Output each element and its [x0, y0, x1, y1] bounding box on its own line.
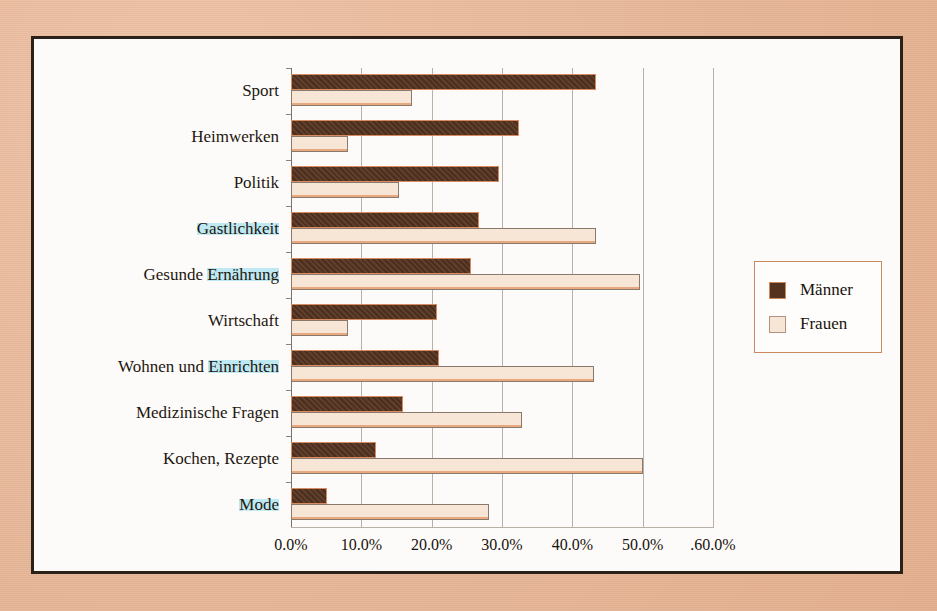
legend-label: Männer — [800, 280, 853, 300]
chart-legend: MännerFrauen — [754, 261, 882, 353]
chart-surface: 0.0%10.0%20.0%30.0%40.0%50.0%.60.0%Sport… — [34, 39, 900, 571]
x-axis-tick-label: 50.0% — [622, 536, 663, 554]
chart-category-band: Gastlichkeit — [291, 206, 713, 252]
bar-frauen — [291, 320, 348, 336]
bar-maenner — [291, 166, 499, 182]
bar-frauen — [291, 274, 640, 290]
chart-category-band: Politik — [291, 160, 713, 206]
y-axis-tick — [286, 68, 291, 69]
y-axis-tick — [286, 252, 291, 253]
x-axis-tick-label: 30.0% — [481, 536, 522, 554]
category-label: Medizinische Fragen — [136, 404, 279, 421]
x-axis-tick-label: 10.0% — [341, 536, 382, 554]
plot-area: 0.0%10.0%20.0%30.0%40.0%50.0%.60.0%Sport… — [291, 68, 713, 528]
bar-maenner — [291, 74, 596, 90]
y-axis-tick — [286, 390, 291, 391]
legend-label: Frauen — [800, 314, 847, 334]
y-axis-tick — [286, 160, 291, 161]
chart-category-band: Heimwerken — [291, 114, 713, 160]
bar-frauen — [291, 228, 596, 244]
y-axis-tick — [286, 436, 291, 437]
y-axis-tick — [286, 206, 291, 207]
legend-entry: Frauen — [769, 314, 847, 334]
chart-category-band: Gesunde Ernährung — [291, 252, 713, 298]
bar-frauen — [291, 504, 489, 520]
bar-frauen — [291, 136, 348, 152]
bar-maenner — [291, 304, 437, 320]
x-axis-tick-label: 20.0% — [411, 536, 452, 554]
x-axis-tick-label: 0.0% — [274, 536, 307, 554]
category-label: Heimwerken — [191, 128, 279, 145]
bar-frauen — [291, 90, 412, 106]
gridline — [713, 68, 714, 528]
chart-frame: 0.0%10.0%20.0%30.0%40.0%50.0%.60.0%Sport… — [31, 36, 903, 574]
y-axis-tick — [286, 298, 291, 299]
bar-frauen — [291, 182, 399, 198]
legend-entry: Männer — [769, 280, 853, 300]
chart-category-band: Wohnen und Einrichten — [291, 344, 713, 390]
bar-maenner — [291, 396, 403, 412]
chart-category-band: Kochen, Rezepte — [291, 436, 713, 482]
category-label: Wirtschaft — [208, 312, 279, 329]
page-background: 0.0%10.0%20.0%30.0%40.0%50.0%.60.0%Sport… — [0, 0, 937, 611]
x-axis-tick-label: .60.0% — [690, 536, 735, 554]
category-label: Gastlichkeit — [197, 220, 279, 237]
category-label: Wohnen und Einrichten — [118, 358, 279, 375]
bar-maenner — [291, 442, 376, 458]
bar-frauen — [291, 458, 643, 474]
chart-category-band: Sport — [291, 68, 713, 114]
y-axis-tick — [286, 482, 291, 483]
bar-frauen — [291, 412, 522, 428]
bar-maenner — [291, 120, 519, 136]
category-label: Politik — [234, 174, 279, 191]
bar-maenner — [291, 488, 327, 504]
chart-category-band: Mode — [291, 482, 713, 528]
chart-category-band: Medizinische Fragen — [291, 390, 713, 436]
bar-frauen — [291, 366, 594, 382]
category-label: Kochen, Rezepte — [163, 450, 279, 467]
legend-swatch-frauen — [769, 316, 786, 333]
bar-maenner — [291, 258, 471, 274]
x-axis-tick-label: 40.0% — [552, 536, 593, 554]
category-label: Mode — [239, 496, 279, 513]
y-axis-tick — [286, 344, 291, 345]
bar-maenner — [291, 350, 439, 366]
category-label: Sport — [242, 82, 279, 99]
legend-swatch-maenner — [769, 282, 786, 299]
chart-category-band: Wirtschaft — [291, 298, 713, 344]
y-axis-tick — [286, 114, 291, 115]
bar-maenner — [291, 212, 479, 228]
category-label: Gesunde Ernährung — [144, 266, 280, 283]
